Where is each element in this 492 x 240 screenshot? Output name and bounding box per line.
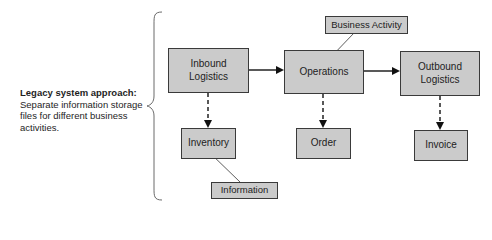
legend-text: Legacy system approach: Separate informa… (20, 87, 150, 133)
node-label: Order (311, 137, 337, 150)
node-label: Logistics (421, 74, 460, 87)
arrowhead-icon (319, 120, 327, 128)
node-inbound-logistics: Inbound Logistics (168, 48, 249, 93)
node-invoice: Invoice (414, 130, 468, 161)
callout-label: Information (221, 184, 269, 197)
arrowhead-icon (276, 66, 284, 74)
arrowhead-icon (204, 120, 212, 128)
legend-title: Legacy system approach: (20, 87, 150, 99)
node-label: Outbound (418, 61, 462, 74)
node-label: Logistics (189, 71, 228, 84)
node-label: Inbound (190, 58, 226, 71)
node-label: Inventory (188, 137, 229, 150)
node-outbound-logistics: Outbound Logistics (400, 51, 480, 96)
node-operations: Operations (284, 50, 364, 94)
arrowhead-icon (436, 122, 444, 130)
node-order: Order (296, 128, 351, 159)
node-label: Operations (300, 66, 349, 79)
arrowhead-icon (392, 67, 400, 75)
node-inventory: Inventory (181, 128, 236, 159)
callout-information: Information (211, 182, 278, 199)
legend-description: Separate information storage files for d… (20, 99, 143, 133)
node-label: Invoice (425, 139, 457, 152)
callout-business-activity: Business Activity (325, 16, 408, 34)
callout-label: Business Activity (331, 19, 402, 32)
